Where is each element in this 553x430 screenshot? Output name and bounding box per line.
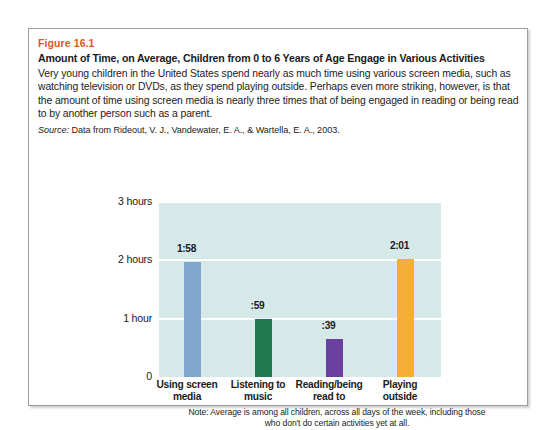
- figure-box: Figure 16.1 Amount of Time, on Average, …: [28, 28, 528, 406]
- y-tick-label-0: 0: [62, 370, 152, 382]
- bar-using-screen-media[interactable]: [184, 262, 201, 377]
- y-tick-label-2h: 2 hours: [62, 253, 152, 265]
- bar-value-reading-being-read-to: :39: [296, 320, 361, 331]
- bar-value-listening-to-music: :59: [225, 300, 290, 311]
- category-line-2: outside: [355, 391, 445, 403]
- figure-title: Amount of Time, on Average, Children fro…: [38, 51, 519, 66]
- y-tick-label-1h: 1 hour: [62, 312, 152, 324]
- source-citation: Data from Rideout, V. J., Vandewater, E.…: [69, 125, 340, 135]
- bar-value-playing-outside: 2:01: [367, 240, 432, 251]
- bar-value-using-screen-media: 1:58: [154, 243, 219, 254]
- category-label-playing-outside: Playing outside: [355, 379, 445, 404]
- bar-listening-to-music[interactable]: [255, 319, 272, 377]
- bar-chart: 3 hours 2 hours 1 hour 0 1:58 :59 :39 2:…: [29, 167, 529, 407]
- figure-caption: Figure 16.1 Amount of Time, on Average, …: [38, 36, 519, 136]
- gridline-3h: [159, 201, 441, 203]
- category-line-1: Playing: [355, 379, 445, 391]
- plot-panel: [159, 201, 441, 377]
- bar-reading-being-read-to[interactable]: [326, 339, 343, 377]
- y-tick-label-3h: 3 hours: [62, 195, 152, 207]
- source-label: Source:: [38, 125, 69, 135]
- bar-playing-outside[interactable]: [397, 259, 414, 377]
- figure-description: Very young children in the United States…: [38, 67, 519, 121]
- figure-source: Source: Data from Rideout, V. J., Vandew…: [38, 124, 519, 136]
- figure-number: Figure 16.1: [38, 36, 519, 50]
- chart-note: Note: Average is among all children, acr…: [187, 407, 487, 429]
